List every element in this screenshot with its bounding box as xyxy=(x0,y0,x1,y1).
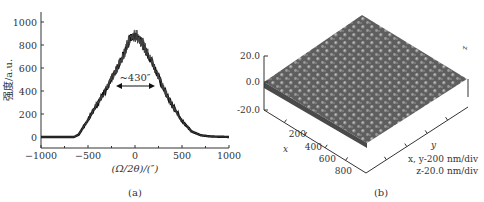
x3d-tick-200: 200 xyxy=(289,129,306,139)
x-tick-label: 500 xyxy=(173,150,191,161)
x-tick-label: 0 xyxy=(132,150,138,161)
x3d-axis-label: x xyxy=(283,144,288,154)
afm-surface xyxy=(264,15,467,143)
xy-scale-label: x, y-200 nm/div xyxy=(408,154,479,164)
y-tick-label: 0 xyxy=(31,132,37,143)
y-tick-label: 400 xyxy=(19,86,37,97)
panel-b-surface: 20.0 0.0 -20.0 z 200 400 600 800 x y x, … xyxy=(237,15,479,198)
y-axis-label: 强度/a.u. xyxy=(2,59,14,101)
figure-canvas: 02004006008001000 −1000−50005001000 强度/a… xyxy=(0,0,484,202)
z-axis-label: z xyxy=(460,45,469,51)
fwhm-annotation: ~430″ xyxy=(119,72,150,83)
z-tick-0: 0.0 xyxy=(246,77,261,87)
y3d-axis-label: y xyxy=(430,140,437,150)
panel-a-label: (a) xyxy=(128,187,142,198)
x-axis-label: (Ω/2θ)/(″) xyxy=(112,163,159,174)
x-ticks: −1000−50005001000 xyxy=(25,145,241,161)
x-tick-label: 1000 xyxy=(217,150,241,161)
fwhm-double-arrow xyxy=(116,83,155,89)
z-scale-label: z-20.0 nm/div xyxy=(416,166,479,176)
rocking-curve-noise xyxy=(41,30,229,137)
z-tick-20: 20.0 xyxy=(240,51,260,61)
y-ticks: 02004006008001000 xyxy=(13,17,44,143)
panel-b-label: (b) xyxy=(374,187,388,198)
rocking-curve-line xyxy=(41,33,229,137)
y-tick-label: 600 xyxy=(19,63,37,74)
x-tick-label: −1000 xyxy=(25,150,57,161)
z-tick-neg20: -20.0 xyxy=(237,105,260,115)
y-tick-label: 800 xyxy=(19,40,37,51)
y-tick-label: 200 xyxy=(19,109,37,120)
x-tick-label: −500 xyxy=(75,150,101,161)
panel-a-chart: 02004006008001000 −1000−50005001000 强度/a… xyxy=(2,12,241,198)
x3d-tick-800: 800 xyxy=(335,166,352,176)
x3d-tick-600: 600 xyxy=(319,154,336,164)
y-tick-label: 1000 xyxy=(13,17,37,28)
x3d-tick-400: 400 xyxy=(305,142,322,152)
